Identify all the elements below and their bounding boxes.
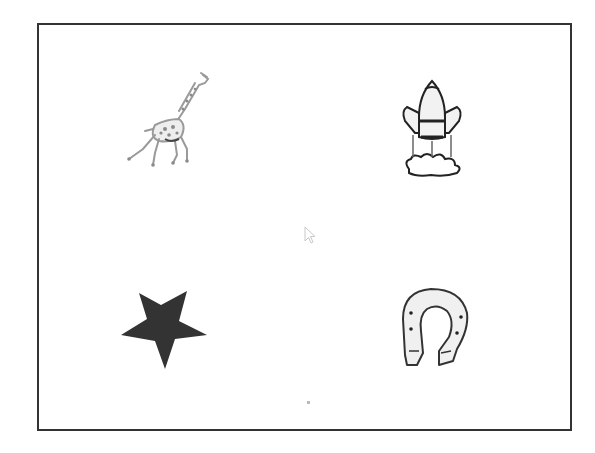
horseshoe-picture[interactable] <box>389 279 479 371</box>
horseshoe-icon <box>389 279 479 371</box>
rocket-picture[interactable] <box>395 77 469 183</box>
rocket-icon <box>395 77 469 183</box>
picture-grid-frame <box>37 23 572 431</box>
giraffe-icon <box>115 69 215 169</box>
giraffe-picture[interactable] <box>115 69 215 169</box>
star-picture[interactable] <box>117 281 212 371</box>
mouse-pointer-icon <box>304 226 318 246</box>
stray-dot <box>307 401 310 404</box>
star-icon <box>117 281 212 371</box>
